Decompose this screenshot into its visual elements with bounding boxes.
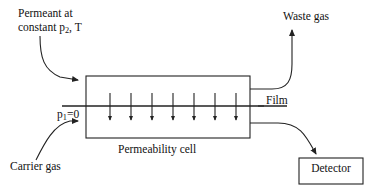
detector-label: Detector — [300, 162, 362, 176]
permeant-inlet-label: Permeant at constant p2, T — [18, 7, 82, 36]
diagram-canvas: Permeant at constant p2, T Waste gas p1=… — [0, 0, 369, 194]
permeability-cell-box — [86, 76, 250, 138]
detector-outlet-arrow — [250, 123, 316, 154]
permeant-label-line2-prefix: constant p — [18, 21, 65, 33]
permeant-label-line2-suffix: , T — [69, 21, 82, 33]
pressure-value: =0 — [67, 108, 79, 120]
waste-gas-label: Waste gas — [283, 10, 329, 24]
permeant-inlet-arrow — [40, 36, 78, 80]
film-label: Film — [266, 94, 288, 108]
carrier-gas-inlet-arrow — [36, 121, 78, 160]
waste-gas-outlet-arrow — [250, 30, 292, 89]
permeant-label-line1: Permeant at — [18, 7, 73, 19]
permeability-cell-label: Permeability cell — [118, 143, 196, 157]
carrier-gas-label: Carrier gas — [10, 160, 61, 174]
downstream-pressure-label: p1=0 — [57, 108, 79, 123]
